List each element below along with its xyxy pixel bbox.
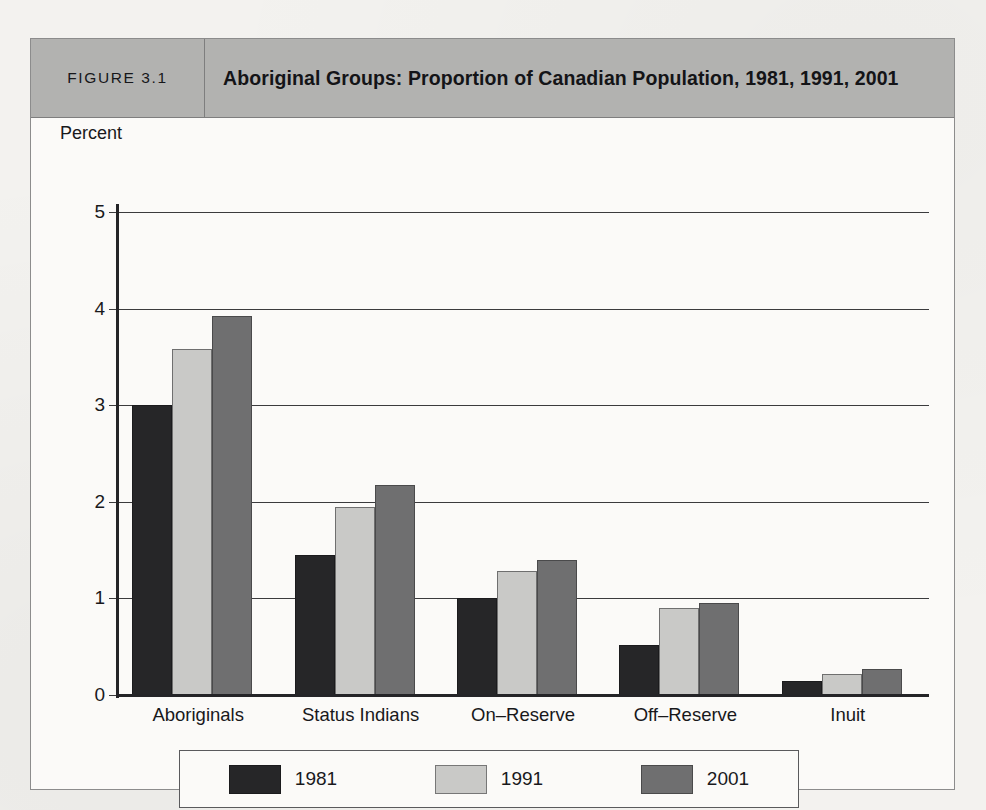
legend-item-1981[interactable]: 1981	[180, 765, 386, 794]
legend-item-2001[interactable]: 2001	[592, 765, 798, 794]
chart-legend: 198119912001	[179, 750, 799, 808]
legend-label-2001: 2001	[707, 768, 749, 790]
y-axis-tick-label: 1	[73, 587, 105, 609]
bar-1991-aboriginals	[172, 349, 212, 695]
legend-label-1991: 1991	[501, 768, 543, 790]
gridline	[117, 212, 929, 213]
bar-1991-status-indians	[335, 507, 375, 695]
chart-region: Percent 012345 AboriginalsStatus Indians…	[31, 118, 954, 791]
x-axis-label-on-reserve: On–Reserve	[442, 704, 604, 726]
legend-item-1991[interactable]: 1991	[386, 765, 592, 794]
x-axis-label-inuit: Inuit	[767, 704, 929, 726]
bar-1991-off-reserve	[659, 608, 699, 695]
y-axis-tick-label: 0	[73, 684, 105, 706]
x-axis-line	[116, 694, 929, 697]
x-axis-label-aboriginals: Aboriginals	[117, 704, 279, 726]
x-axis-label-status-indians: Status Indians	[279, 704, 441, 726]
bar-1991-on-reserve	[497, 571, 537, 695]
gridline	[117, 309, 929, 310]
bar-1991-inuit	[822, 674, 862, 695]
bar-1981-status-indians	[295, 555, 335, 695]
bar-2001-off-reserve	[699, 603, 739, 695]
figure-container: FIGURE 3.1 Aboriginal Groups: Proportion…	[30, 38, 955, 790]
bar-1981-aboriginals	[132, 405, 172, 695]
bar-1981-inuit	[782, 681, 822, 695]
y-axis-tick-label: 4	[73, 298, 105, 320]
figure-number-label: FIGURE 3.1	[67, 69, 167, 87]
figure-title-cell: Aboriginal Groups: Proportion of Canadia…	[205, 39, 954, 117]
figure-header: FIGURE 3.1 Aboriginal Groups: Proportion…	[31, 39, 954, 118]
y-axis-tick-label: 2	[73, 491, 105, 513]
legend-swatch-icon-1981	[229, 765, 281, 794]
y-axis-line	[116, 204, 119, 698]
figure-number-cell: FIGURE 3.1	[31, 39, 205, 117]
bar-2001-inuit	[862, 669, 902, 695]
bar-1981-on-reserve	[457, 598, 497, 695]
x-axis-label-off-reserve: Off–Reserve	[604, 704, 766, 726]
legend-swatch-icon-1991	[435, 765, 487, 794]
page-background: FIGURE 3.1 Aboriginal Groups: Proportion…	[0, 0, 986, 810]
y-axis-tick-label: 5	[73, 201, 105, 223]
bar-2001-on-reserve	[537, 560, 577, 695]
legend-label-1981: 1981	[295, 768, 337, 790]
bar-1981-off-reserve	[619, 645, 659, 695]
y-axis-tick-label: 3	[73, 394, 105, 416]
bar-2001-aboriginals	[212, 316, 252, 695]
bar-2001-status-indians	[375, 485, 415, 695]
plot-area: 012345 AboriginalsStatus IndiansOn–Reser…	[31, 118, 954, 791]
legend-swatch-icon-2001	[641, 765, 693, 794]
figure-title: Aboriginal Groups: Proportion of Canadia…	[223, 65, 899, 92]
